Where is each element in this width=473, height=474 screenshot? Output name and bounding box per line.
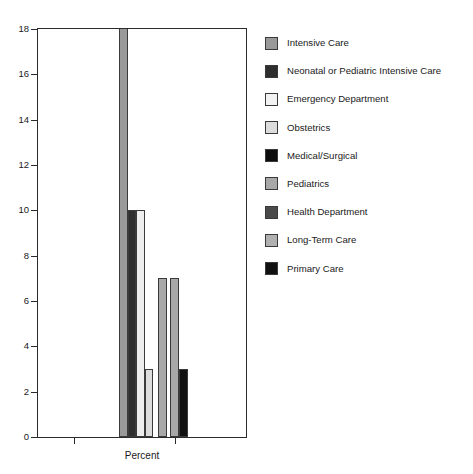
legend-item-label: Pediatrics	[287, 178, 329, 190]
y-axis-tick	[31, 346, 37, 347]
x-axis-tick	[175, 438, 176, 444]
legend-swatch-icon	[265, 121, 278, 134]
legend-item: Pediatrics	[265, 177, 471, 191]
bar	[145, 369, 153, 437]
y-axis-tick-label: 4	[5, 341, 29, 351]
y-axis-tick-label: 14	[5, 115, 29, 125]
y-axis-tick-label: 6	[5, 296, 29, 306]
y-axis-tick-label: 12	[5, 160, 29, 170]
y-axis-tick	[31, 437, 37, 438]
y-axis-tick	[31, 210, 37, 211]
legend-item: Obstetrics	[265, 121, 471, 135]
legend-swatch-icon	[265, 234, 278, 247]
legend-swatch-icon	[265, 177, 278, 190]
legend-item-label: Medical/Surgical	[287, 150, 357, 162]
legend-swatch-icon	[265, 149, 278, 162]
y-axis-tick	[31, 165, 37, 166]
plot-region: 024681012141618 Percent	[0, 0, 262, 474]
y-axis-tick-label: 16	[5, 69, 29, 79]
legend-swatch-icon	[265, 262, 278, 275]
y-axis-tick-label: 0	[5, 432, 29, 442]
y-axis-tick	[31, 120, 37, 121]
legend-item: Neonatal or Pediatric Intensive Care	[265, 64, 471, 78]
legend-item: Intensive Care	[265, 36, 471, 50]
legend-item-label: Intensive Care	[287, 37, 349, 49]
legend-item: Emergency Department	[265, 92, 471, 106]
x-axis-label: Percent	[37, 450, 247, 461]
legend-item: Long-Term Care	[265, 233, 471, 247]
y-axis-tick	[31, 29, 37, 30]
bar	[119, 29, 128, 437]
y-axis-tick	[31, 301, 37, 302]
bars-layer	[38, 29, 246, 437]
bar	[136, 210, 145, 437]
legend-item-label: Obstetrics	[287, 122, 330, 134]
bar	[170, 278, 179, 437]
legend-swatch-icon	[265, 65, 278, 78]
y-axis-tick-label: 10	[5, 205, 29, 215]
bar-chart-figure: 024681012141618 Percent Intensive CareNe…	[0, 0, 473, 474]
chart-legend: Intensive CareNeonatal or Pediatric Inte…	[265, 36, 471, 290]
y-axis-tick	[31, 392, 37, 393]
legend-swatch-icon	[265, 93, 278, 106]
legend-item-label: Neonatal or Pediatric Intensive Care	[287, 65, 441, 77]
legend-swatch-icon	[265, 37, 278, 50]
legend-item: Medical/Surgical	[265, 149, 471, 163]
legend-item-label: Emergency Department	[287, 93, 388, 105]
x-axis-tick	[74, 438, 75, 444]
y-axis-tick-label: 2	[5, 387, 29, 397]
y-axis-labels: 024681012141618	[0, 0, 29, 474]
bar	[179, 369, 188, 437]
legend-swatch-icon	[265, 206, 278, 219]
y-axis-tick-label: 8	[5, 251, 29, 261]
y-axis-tick	[31, 74, 37, 75]
legend-item-label: Primary Care	[287, 263, 344, 275]
legend-item: Primary Care	[265, 262, 471, 276]
legend-item: Health Department	[265, 205, 471, 219]
bar	[128, 210, 136, 437]
legend-item-label: Health Department	[287, 206, 368, 218]
legend-item-label: Long-Term Care	[287, 234, 356, 246]
y-axis-tick-label: 18	[5, 24, 29, 34]
y-axis-tick	[31, 256, 37, 257]
bar	[158, 278, 167, 437]
